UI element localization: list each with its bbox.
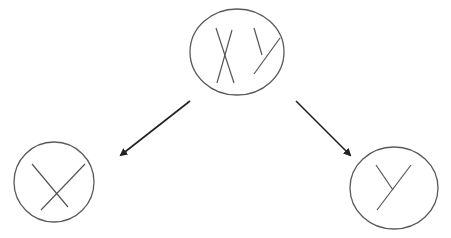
arrow-to-x: [121, 101, 190, 155]
diagram-canvas: XY X Y: [0, 0, 451, 238]
child-x-outline: [14, 142, 94, 222]
child-cell-x: X: [14, 142, 94, 222]
y-chromosome-glyph: [376, 165, 411, 210]
parent-cell-xy: XY: [190, 9, 284, 95]
x-chromosome-glyph: [32, 164, 85, 210]
parent-cell-label: XY: [237, 51, 239, 52]
child-cell-y: Y: [350, 147, 438, 229]
arrow-to-y: [296, 101, 350, 155]
child-x-label: X: [54, 181, 55, 182]
y-chromosome-glyph: [254, 28, 280, 74]
x-chromosome-glyph: [216, 28, 234, 83]
